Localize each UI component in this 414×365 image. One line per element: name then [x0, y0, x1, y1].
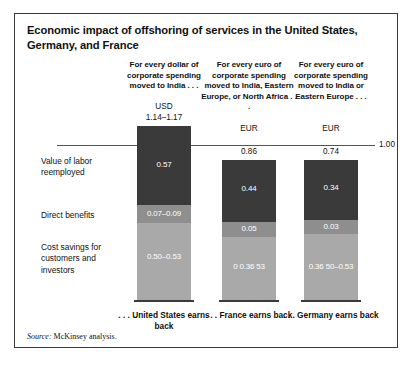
bar-baseline-de	[301, 300, 361, 302]
reference-line-label: 1.00	[379, 140, 395, 149]
segment-label-value-of-labor-de: 0.34	[304, 183, 358, 192]
row-label-value-of-labor: Value of labor reemployed	[41, 156, 129, 179]
bar-baseline-fr	[219, 300, 279, 302]
segment-label-value-of-labor-us: 0.57	[137, 160, 191, 169]
column-header-united-states: For every dollar of corporate spending m…	[116, 60, 212, 92]
segment-label-value-of-labor-fr: 0.44	[222, 184, 276, 193]
segment-label-direct-benefits-us: 0.07–0.09	[137, 209, 191, 218]
reference-line	[57, 145, 375, 146]
column-header-germany: For every euro of corporate spending mov…	[283, 60, 379, 102]
total-value-germany: 0.74	[283, 147, 379, 156]
segment-cost-savings-us	[137, 223, 191, 300]
currency-label-eur-germany: EUR	[283, 124, 379, 133]
row-label-direct-benefits: Direct benefits	[41, 210, 129, 221]
source-text: McKinsey analysis.	[54, 332, 117, 341]
segment-label-cost-savings-de: 0.36 50–0.53	[304, 262, 358, 271]
currency-label-usd: USD	[116, 102, 212, 111]
exhibit-panel: Economic impact of offshoring of service…	[14, 13, 398, 348]
segment-label-direct-benefits-fr: 0.05	[222, 224, 276, 233]
source-prefix: Source:	[27, 332, 52, 341]
total-value-united-states: 1.14–1.17	[116, 113, 212, 122]
row-label-cost-savings: Cost savings for customers and investors	[41, 242, 129, 276]
bar-baseline-us	[134, 300, 194, 302]
segment-label-direct-benefits-de: 0.03	[304, 222, 358, 231]
chart-plot-area: For every dollar of corporate spending m…	[15, 14, 399, 349]
segment-label-cost-savings-fr: 0 0.36 53	[222, 262, 276, 271]
segment-label-cost-savings-us: 0.50–0.53	[137, 252, 191, 261]
x-axis-label-germany: . . . Germany earns back	[279, 310, 383, 321]
source-note: Source: McKinsey analysis.	[27, 332, 117, 341]
